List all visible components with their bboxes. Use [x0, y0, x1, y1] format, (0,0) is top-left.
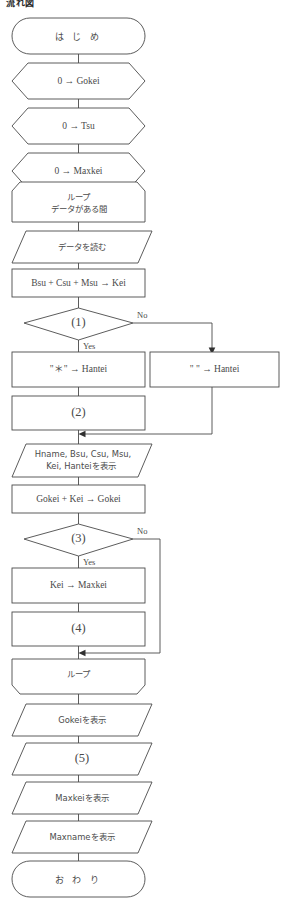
arrowhead-merge2	[79, 650, 86, 657]
node-decision-1[interactable]: (1) No Yes	[24, 308, 147, 351]
node-label: データを読む	[58, 242, 106, 252]
node-set-hantei-blank[interactable]: " " → Hantei	[150, 352, 279, 387]
node-blank-4[interactable]: (4)	[12, 612, 145, 646]
node-calc-kei[interactable]: Bsu + Csu + Msu → Kei	[12, 269, 145, 297]
node-init-gokei[interactable]: 0 → Gokei	[12, 63, 145, 99]
node-label: Gokei + Kei → Gokei	[36, 494, 121, 504]
node-read-data[interactable]: データを読む	[12, 231, 152, 263]
node-label: (5)	[75, 751, 90, 765]
node-label: 0 → Maxkei	[54, 166, 102, 176]
node-label: (4)	[71, 621, 86, 635]
branch-label-yes-1: Yes	[83, 341, 95, 351]
node-set-maxkei[interactable]: Kei → Maxkei	[12, 568, 145, 603]
loop-start-shape	[12, 182, 145, 222]
node-print-maxkei[interactable]: Maxkeiを表示	[12, 782, 152, 814]
node-loop-start[interactable]: ループ データがある間	[12, 182, 145, 222]
node-label-second-line: データがある間	[51, 204, 107, 214]
node-print-gokei[interactable]: Gokeiを表示	[12, 704, 152, 736]
node-label: Hname, Bsu, Csu, Msu,	[35, 449, 132, 459]
node-decision-3[interactable]: (3) No Yes	[24, 524, 147, 567]
branch-label-no-3: No	[137, 526, 147, 536]
node-label: 0 → Tsu	[62, 121, 95, 131]
node-label: Bsu + Csu + Msu → Kei	[31, 278, 126, 288]
node-label: は じ め	[55, 32, 103, 42]
node-print-record[interactable]: Hname, Bsu, Csu, Msu, Kei, Hanteiを表示	[12, 444, 152, 477]
node-set-hantei-star[interactable]: "＊" → Hantei	[12, 352, 145, 387]
edge-n8-n10-no	[133, 323, 212, 350]
node-label: " " → Hantei	[190, 364, 240, 374]
branch-label-no-1: No	[137, 310, 147, 320]
node-end-terminal[interactable]: お わ り	[12, 861, 145, 897]
node-start-terminal[interactable]: は じ め	[12, 18, 145, 54]
node-label: Maxnameを表示	[49, 832, 114, 842]
node-print-maxname[interactable]: Maxnameを表示	[12, 821, 152, 853]
node-label: (3)	[71, 531, 86, 545]
figure-caption: 流れ図	[6, 0, 35, 9]
flowchart-canvas: 流れ図	[0, 0, 287, 907]
node-label: お わ り	[55, 875, 103, 885]
node-label-second-line: Kei, Hanteiを表示	[46, 461, 115, 471]
node-init-tsu[interactable]: 0 → Tsu	[12, 108, 145, 144]
node-label: 0 → Gokei	[57, 76, 100, 86]
node-loop-end[interactable]: ループ	[12, 659, 145, 694]
node-label: Gokeiを表示	[58, 715, 106, 725]
node-label: (1)	[71, 315, 86, 329]
node-label: "＊" → Hantei	[50, 364, 108, 374]
node-blank-5[interactable]: (5)	[12, 743, 152, 775]
node-label: ループ	[67, 192, 91, 202]
node-label: Maxkeiを表示	[55, 793, 108, 803]
node-accumulate-gokei[interactable]: Gokei + Kei → Gokei	[12, 485, 145, 513]
node-label: Kei → Maxkei	[50, 580, 107, 590]
node-label: (2)	[71, 405, 86, 419]
branch-label-yes-3: Yes	[83, 557, 95, 567]
arrowhead-merge1	[79, 431, 86, 438]
node-label: ループ	[67, 669, 91, 679]
node-blank-2[interactable]: (2)	[12, 396, 145, 430]
